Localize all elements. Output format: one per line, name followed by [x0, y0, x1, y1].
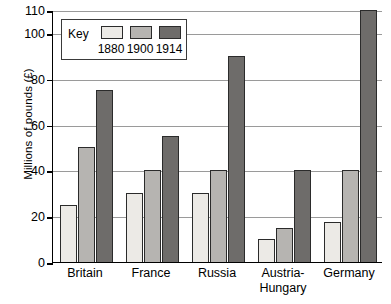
- x-axis-label: France: [118, 266, 184, 281]
- x-axis-label: Russia: [184, 266, 250, 281]
- bar-1900: [144, 170, 161, 262]
- bar-1880: [192, 193, 209, 262]
- y-tick-label: 20: [31, 211, 45, 224]
- bar-group: [317, 11, 383, 262]
- legend-title: Key: [68, 27, 89, 41]
- bar-1880: [324, 222, 341, 262]
- x-axis-label: Austria- Hungary: [250, 266, 316, 295]
- legend-label-1880: 1880: [96, 42, 126, 56]
- bar-1900: [276, 228, 293, 262]
- y-tick-label: 0: [38, 257, 45, 270]
- y-tick-label: 60: [31, 119, 45, 132]
- x-axis-label: Germany: [316, 266, 382, 281]
- bar-1880: [258, 239, 275, 262]
- legend-swatch-1914: [159, 26, 181, 39]
- bar-1900: [210, 170, 227, 262]
- bar-1914: [162, 136, 179, 262]
- y-tick-label: 80: [31, 73, 45, 86]
- x-axis-label: Britain: [52, 266, 118, 281]
- bar-group: [185, 11, 251, 262]
- legend-label-1914: 1914: [154, 42, 184, 56]
- bar-1914: [228, 56, 245, 262]
- bar-1914: [294, 170, 311, 262]
- bar-1880: [60, 205, 77, 262]
- legend-swatch-1880: [101, 26, 123, 39]
- bar-1914: [96, 90, 113, 262]
- bar-1900: [78, 147, 95, 262]
- bar-1900: [342, 170, 359, 262]
- bar-1914: [360, 10, 377, 262]
- legend-label-1900: 1900: [125, 42, 155, 56]
- x-axis-labels: BritainFranceRussiaAustria- HungaryGerma…: [52, 266, 382, 304]
- legend-swatch-1900: [130, 26, 152, 39]
- y-tick-label: 110: [25, 5, 45, 18]
- y-tick-mark: [47, 263, 53, 265]
- bar-group: [251, 11, 317, 262]
- bar-chart: Millions of pounds (£) 020406080100110 B…: [0, 0, 391, 304]
- y-tick-label: 100: [24, 28, 45, 41]
- y-tick-label: 40: [31, 165, 45, 178]
- legend: Key 188019001914: [61, 19, 187, 60]
- bar-1880: [126, 193, 143, 262]
